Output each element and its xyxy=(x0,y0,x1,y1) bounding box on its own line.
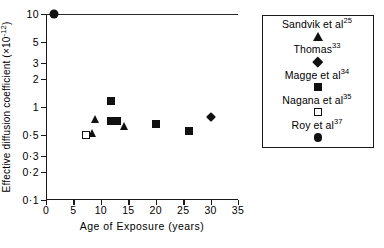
legend-label-sandvik-et-al: Sandvik et al25 xyxy=(263,17,373,30)
chart-plot-area: 1053210·50·30·20·1 05101520253035 xyxy=(46,14,238,200)
legend-entry-text: Roy et al xyxy=(292,119,334,131)
data-point-circle xyxy=(50,10,59,19)
y-tick-label: 2 xyxy=(33,73,39,85)
legend-entry-text: Nagana et al xyxy=(282,93,343,105)
legend-label-magge-et-al: Magge et al34 xyxy=(263,68,373,81)
y-axis-title-text: Effective diffusion coefficient xyxy=(1,61,12,193)
legend-marker-square-icon xyxy=(263,81,373,93)
diamond-icon xyxy=(313,56,324,67)
x-tick-label: 10 xyxy=(95,204,107,216)
y-tick-label: 0·5 xyxy=(23,129,39,141)
y-tick xyxy=(41,107,46,108)
x-tick-label: 25 xyxy=(177,204,189,216)
x-tick-label: 15 xyxy=(122,204,134,216)
legend-marker-triangle-icon xyxy=(263,30,373,42)
x-tick-label: 20 xyxy=(150,204,162,216)
legend-label-nagana-et-al: Nagana et al35 xyxy=(263,93,373,106)
y-tick xyxy=(41,156,46,157)
y-tick-label: 0·1 xyxy=(23,194,39,206)
chart-legend: Sandvik et al25Thomas33Magge et al34Naga… xyxy=(262,15,374,148)
y-tick xyxy=(41,42,46,43)
y-tick-label: 5 xyxy=(33,36,39,48)
legend-entry-reference: 33 xyxy=(332,41,341,50)
triangle-icon xyxy=(313,32,323,41)
legend-entry-text: Thomas xyxy=(293,43,332,55)
legend-marker-circle-icon xyxy=(263,131,373,143)
y-axis-title: Effective diffusion coefficient (×10-12) xyxy=(0,14,12,200)
y-tick-label: 0·3 xyxy=(23,149,39,161)
y-tick-label: 0·2 xyxy=(23,166,39,178)
legend-entry-reference: 34 xyxy=(341,67,350,76)
y-tick xyxy=(41,79,46,80)
data-point-square xyxy=(113,117,121,125)
legend-label-roy-et-al: Roy et al37 xyxy=(263,118,373,131)
y-tick xyxy=(41,14,46,15)
y-tick-label: 3 xyxy=(33,56,39,68)
legend-entry-reference: 35 xyxy=(343,92,352,101)
circle-icon xyxy=(314,133,323,142)
legend-label-thomas: Thomas33 xyxy=(263,42,373,55)
y-axis-exponent: -12 xyxy=(0,25,8,36)
x-tick-label: 5 xyxy=(70,204,76,216)
y-axis-units: (×10-12) xyxy=(1,22,12,58)
legend-marker-diamond-icon xyxy=(263,56,373,68)
y-tick xyxy=(41,135,46,136)
legend-marker-open-square-icon xyxy=(263,106,373,118)
y-tick-label: 1 xyxy=(33,101,39,113)
axis-frame xyxy=(46,14,238,200)
x-axis-title: Age of Exposure (years) xyxy=(46,220,238,232)
legend-entry-reference: 25 xyxy=(343,16,352,25)
data-point-triangle xyxy=(91,115,99,123)
x-tick-label: 35 xyxy=(232,204,244,216)
y-tick xyxy=(41,172,46,173)
top-border-rule xyxy=(46,14,238,15)
legend-entry-text: Sandvik et al xyxy=(282,18,343,30)
data-point-square xyxy=(107,97,115,105)
square-icon xyxy=(314,83,323,92)
x-tick-label: 30 xyxy=(204,204,216,216)
legend-entry-reference: 37 xyxy=(334,117,343,126)
y-tick xyxy=(41,63,46,64)
x-tick-label: 0 xyxy=(43,204,49,216)
y-tick-label: 10 xyxy=(27,8,39,20)
open-square-icon xyxy=(314,108,323,117)
data-point-square xyxy=(185,127,193,135)
legend-entry-text: Magge et al xyxy=(285,68,341,80)
data-point-open-square xyxy=(82,131,90,139)
data-point-square xyxy=(152,120,160,128)
